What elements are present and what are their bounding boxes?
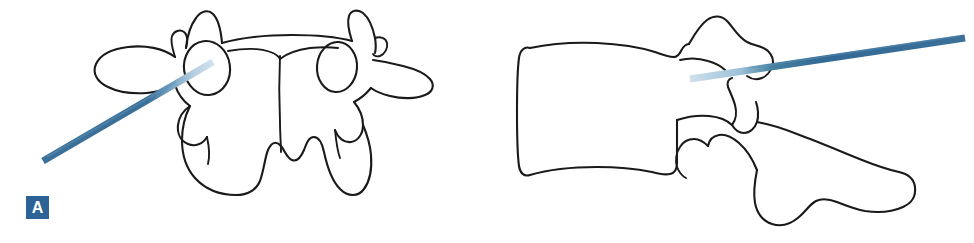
- inner-superior-contour-right: [280, 47, 338, 59]
- midline-cleft: [279, 56, 281, 152]
- transverse-process: [676, 139, 708, 167]
- panel-a-illustration: [0, 0, 487, 243]
- superior-vertebral-notch: [674, 44, 689, 57]
- spinous-anterior-edge: [708, 135, 757, 170]
- pedicle-lower-margin: [677, 116, 732, 125]
- left-superior-process-peak: [186, 11, 222, 48]
- needle-b-shaft: [690, 38, 965, 79]
- left-transverse-process: [95, 46, 175, 93]
- pedicle-upper-margin: [680, 59, 725, 70]
- vertebral-body-lower-outline: [182, 106, 371, 195]
- needle-a-highlight: [47, 82, 176, 157]
- left-body-connector: [207, 137, 209, 164]
- figure-root: A: [0, 0, 974, 243]
- lamina-upper-edge: [757, 122, 899, 172]
- left-superior-articular-process: [171, 31, 187, 57]
- panel-label-a: A: [26, 196, 49, 219]
- inner-superior-contour-left: [228, 49, 280, 59]
- superior-endplate: [530, 43, 674, 57]
- pedicle-body-junction: [728, 78, 736, 125]
- panel-b-illustration: [487, 0, 974, 243]
- needle-b-highlight: [749, 36, 959, 68]
- right-superior-articular-process: [348, 11, 376, 53]
- panel-b: B: [487, 0, 974, 243]
- right-transverse-process: [371, 60, 433, 98]
- spinous-process: [754, 170, 915, 225]
- vertebral-body: [517, 47, 677, 175]
- inferior-notch-curl: [677, 167, 686, 178]
- panel-a: A: [0, 0, 487, 243]
